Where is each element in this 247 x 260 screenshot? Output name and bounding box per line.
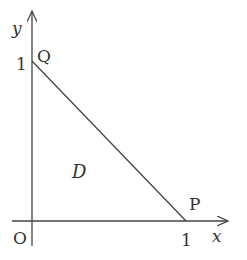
coordinate-diagram: y 1 Q D P O 1 x [0, 0, 247, 260]
y-tick-one-label: 1 [16, 54, 27, 74]
region-d-label: D [71, 161, 87, 182]
y-axis-label: y [11, 18, 22, 38]
origin-label: O [13, 228, 27, 248]
x-tick-one-label: 1 [181, 230, 192, 250]
line-qp [32, 61, 186, 221]
point-p-label: P [189, 194, 200, 214]
point-q-label: Q [37, 46, 51, 66]
x-axis-label: x [212, 226, 222, 246]
